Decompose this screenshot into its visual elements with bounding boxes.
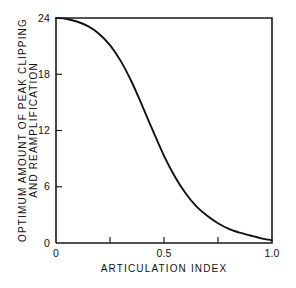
y-tick-label: 18 [38, 68, 50, 80]
y-axis-title-line1: OPTIMUM AMOUNT OF PEAK CLIPPING [17, 18, 28, 242]
x-tick-label: 1.0 [264, 247, 279, 259]
articulation-index-chart: 06121824 00.51.0 ARTICULATION INDEX OPTI… [0, 0, 296, 288]
y-axis-title-line2: AND REAMPLIFICATION [28, 62, 39, 198]
x-axis-title: ARTICULATION INDEX [101, 263, 227, 274]
y-tick-label: 24 [38, 12, 50, 24]
y-tick-label: 6 [44, 180, 50, 192]
x-tick-label: 0 [53, 247, 59, 259]
y-tick-label: 0 [44, 237, 50, 249]
y-tick-label: 12 [38, 124, 50, 136]
x-tick-label: 0.5 [156, 247, 171, 259]
chart-figure: 06121824 00.51.0 ARTICULATION INDEX OPTI… [0, 0, 296, 288]
